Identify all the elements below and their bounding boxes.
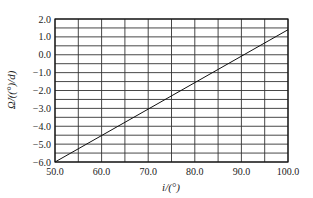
x-tick-label: 80.0	[186, 166, 204, 177]
y-tick-label: −1.0	[33, 67, 51, 78]
y-tick-label: 2.0	[39, 14, 52, 25]
x-tick-label: 100.0	[277, 166, 300, 177]
line-chart: 2.01.00.0−1.0−2.0−3.0−4.0−5.0−6.0 50.060…	[0, 0, 313, 198]
y-tick-label: −4.0	[33, 121, 51, 132]
y-tick-label: −2.0	[33, 85, 51, 96]
y-tick-label: 0.0	[39, 49, 52, 60]
y-tick-label: −5.0	[33, 139, 51, 150]
x-axis-ticks: 50.060.070.080.090.0100.0	[46, 166, 299, 177]
x-tick-label: 70.0	[139, 166, 157, 177]
y-tick-label: 1.0	[39, 31, 52, 42]
x-tick-label: 50.0	[46, 166, 64, 177]
y-tick-label: −3.0	[33, 103, 51, 114]
y-axis-label: Ω̇/((°)/d)	[5, 70, 18, 109]
x-axis-label: i/(°)	[162, 181, 180, 194]
y-axis-ticks: 2.01.00.0−1.0−2.0−3.0−4.0−5.0−6.0	[33, 14, 51, 168]
grid-lines	[55, 19, 288, 162]
x-tick-label: 60.0	[93, 166, 111, 177]
x-tick-label: 90.0	[233, 166, 251, 177]
